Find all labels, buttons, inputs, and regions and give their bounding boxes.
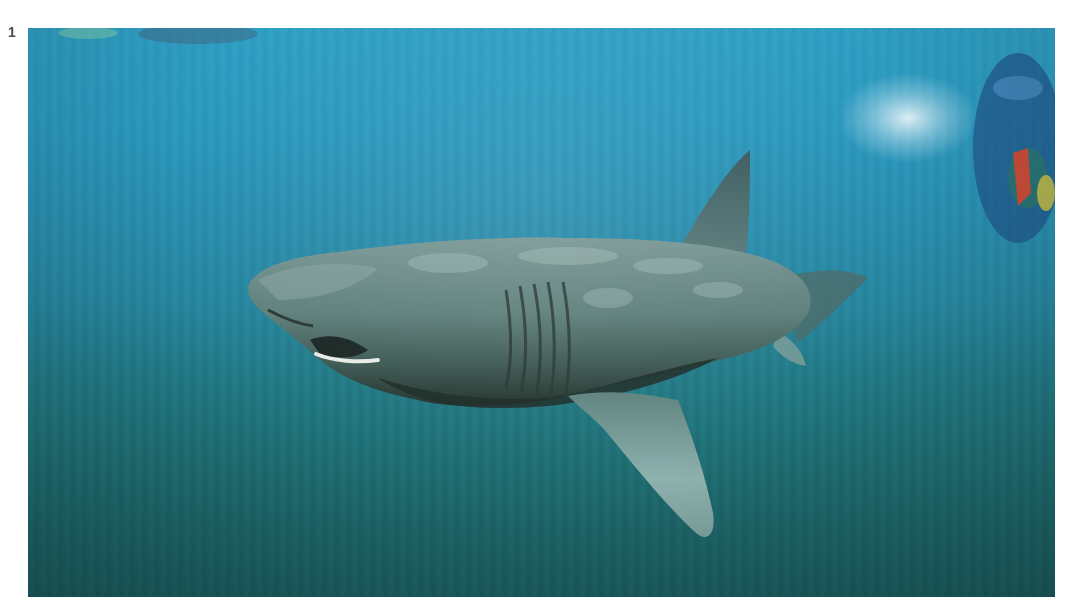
figure-number: 1 xyxy=(8,24,16,40)
photo-vignette xyxy=(28,28,1055,597)
shark-photo xyxy=(28,28,1055,597)
